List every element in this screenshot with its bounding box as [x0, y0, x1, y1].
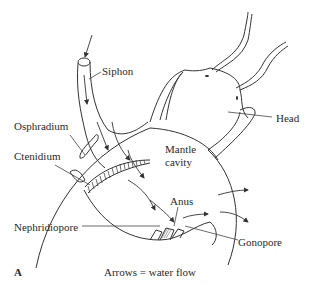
label-mantle-cavity-1: Mantle	[165, 143, 196, 155]
label-siphon: Siphon	[102, 65, 133, 77]
osphradium	[80, 135, 98, 159]
water-flow-arrows	[84, 35, 248, 222]
leader-lines	[55, 72, 272, 240]
label-anus: Anus	[170, 195, 193, 207]
head	[150, 12, 288, 158]
label-osphradium: Osphradium	[14, 120, 68, 132]
label-head: Head	[276, 112, 299, 124]
body-outline-arc	[36, 128, 150, 268]
label-gonopore: Gonopore	[238, 236, 282, 248]
gastropod-mantle-cavity-diagram: Siphon Head Osphradium Ctenidium Mantle …	[0, 0, 314, 285]
ctenidium	[70, 160, 150, 193]
label-ctenidium: Ctenidium	[14, 150, 60, 162]
mantle-edge-arc	[208, 150, 236, 265]
anus-nephridiopore-structures	[150, 228, 184, 240]
figure-caption: Arrows = water flow	[104, 266, 196, 278]
label-mantle-cavity-2: cavity	[165, 156, 192, 168]
panel-letter: A	[14, 266, 22, 278]
label-nephridiopore: Nephridiopore	[14, 221, 78, 233]
